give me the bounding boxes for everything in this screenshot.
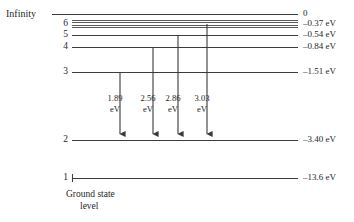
transition-unit-n6-to-n2: eV — [197, 104, 207, 114]
ground-state-label: Ground state level — [66, 188, 115, 213]
transition-label-n5-to-n2: 2.86 eV — [158, 93, 188, 114]
ground-state-label-line2: level — [66, 200, 115, 212]
transition-unit-n3-to-n2: eV — [110, 104, 120, 114]
transition-unit-n5-to-n2: eV — [168, 104, 178, 114]
level-number-n6: 6 — [56, 19, 68, 29]
level-number-n1: 1 — [56, 173, 68, 183]
ground-state-label-line1: Ground state — [66, 189, 115, 199]
transition-energy-n4-to-n2: 2.56 — [140, 93, 155, 103]
energy-value-n6: –0.37 eV — [303, 19, 336, 28]
level-number-n3: 3 — [56, 67, 68, 77]
energy-value-n2: –3.40 eV — [303, 135, 336, 144]
energy-value-n4: –0.84 eV — [303, 42, 336, 51]
energy-value-n5: –0.54 eV — [303, 30, 336, 39]
level-number-n4: 4 — [56, 42, 68, 52]
energy-value-n3: –1.51 eV — [303, 67, 336, 76]
energy-level-diagram: Infinity 6 5 4 3 2 1 0 –0.37 eV –0.54 eV… — [0, 0, 354, 222]
transition-unit-n4-to-n2: eV — [143, 104, 153, 114]
energy-value-infinity: 0 — [303, 9, 308, 18]
energy-value-n1: –13.6 eV — [303, 173, 336, 182]
transition-label-n3-to-n2: 1.89 eV — [100, 93, 130, 114]
infinity-label: Infinity — [6, 9, 36, 19]
transition-energy-n5-to-n2: 2.86 — [165, 93, 180, 103]
transition-energy-n3-to-n2: 1.89 — [107, 93, 122, 103]
level-number-n2: 2 — [56, 135, 68, 145]
transition-energy-n6-to-n2: 3.03 — [194, 93, 209, 103]
level-number-n5: 5 — [56, 30, 68, 40]
transition-label-n6-to-n2: 3.03 eV — [187, 93, 217, 114]
